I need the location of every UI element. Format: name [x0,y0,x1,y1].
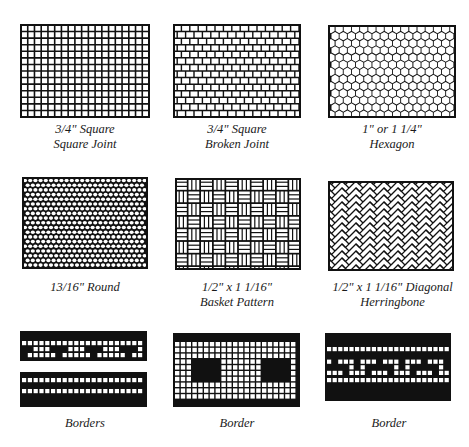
round-tile [130,230,134,234]
herringbone-joint [430,188,434,192]
basket-cell [188,216,201,229]
border-tile [239,371,243,375]
round-tile [98,193,102,197]
round-tile [140,202,144,206]
round-tile [59,235,63,239]
basket-cell [263,191,276,204]
border-tile [333,371,337,375]
round-tile [117,216,121,220]
round-tile [127,226,131,230]
border-tile [349,378,353,382]
herringbone-joint [426,265,430,269]
round-tile [106,245,110,249]
border-tile [285,388,289,392]
border-tile [291,354,295,358]
basket-cell [251,191,264,204]
herringbone-joint [402,209,406,213]
round-tile [46,193,50,197]
round-tile [78,221,82,225]
round-tile [52,240,56,244]
round-tile [119,221,123,225]
herringbone-line [405,195,419,202]
round-tile [80,226,84,230]
round-tile [31,249,35,253]
border-tile [361,371,365,375]
border-tile [445,371,449,375]
herringbone-joint [356,209,360,213]
border-tile [181,348,185,352]
round-tile [130,183,134,187]
round-tile [65,179,69,183]
border-squares-pattern [173,333,300,407]
border-tile [210,394,214,398]
herringbone-joint [440,265,444,269]
round-tile [88,193,92,197]
herringbone-line [391,209,405,216]
herringbone-joint [356,195,360,199]
round-tile [122,226,126,230]
border-tile [245,354,249,358]
herringbone-line [391,258,405,265]
border-tile [250,377,254,381]
border-tile [262,388,266,392]
herringbone-joint [398,195,402,199]
border-tile [338,371,342,375]
border-tile [250,394,254,398]
herringbone-line [419,223,433,230]
border-tile [28,378,32,382]
border-tile [338,378,342,382]
herringbone-joint [374,244,378,248]
round-tile [52,183,56,187]
herringbone-joint [356,223,360,227]
round-tile [28,226,32,230]
round-tile [85,235,89,239]
border-tile [366,378,370,382]
round-tile [46,230,50,234]
herringbone-line [377,209,391,216]
border-tile [74,353,78,357]
herringbone-joint [416,209,420,213]
round-tile [28,254,32,258]
border-tile [256,383,260,387]
round-pattern [22,177,148,269]
round-tile [104,221,108,225]
round-tile [67,249,71,253]
herringbone-line [391,251,405,258]
round-tile [119,193,123,197]
herringbone-line [363,230,377,237]
herringbone-line [433,223,447,230]
round-tile [59,207,63,211]
herringbone-line [391,216,405,223]
herringbone-line [405,202,419,209]
border-tile [216,342,220,346]
border-tile [411,347,415,351]
round-tile [46,183,50,187]
caption-border-squares: Border [173,416,301,431]
basket-cell [213,216,226,229]
herringbone-joint [374,237,378,241]
round-tile [127,263,131,267]
round-tile [44,216,48,220]
round-tile [49,207,53,211]
round-tile [52,221,56,225]
herringbone-joint [426,244,430,248]
border-tile [285,348,289,352]
round-tile [106,207,110,211]
border-tile [74,378,78,382]
border-tile [121,341,125,345]
herringbone-joint [384,230,388,234]
round-tile [104,259,108,263]
herringbone-joint [444,216,448,220]
border-tile [181,359,185,363]
round-tile [28,188,32,192]
border-tile [74,341,78,345]
border-tile [274,388,278,392]
border-tile [279,348,283,352]
round-tile [72,221,76,225]
border-tile [274,354,278,358]
round-tile [41,193,45,197]
herringbone-joint [342,209,346,213]
border-tile [250,342,254,346]
herringbone-line [377,251,391,258]
herringbone-joint [412,258,416,262]
